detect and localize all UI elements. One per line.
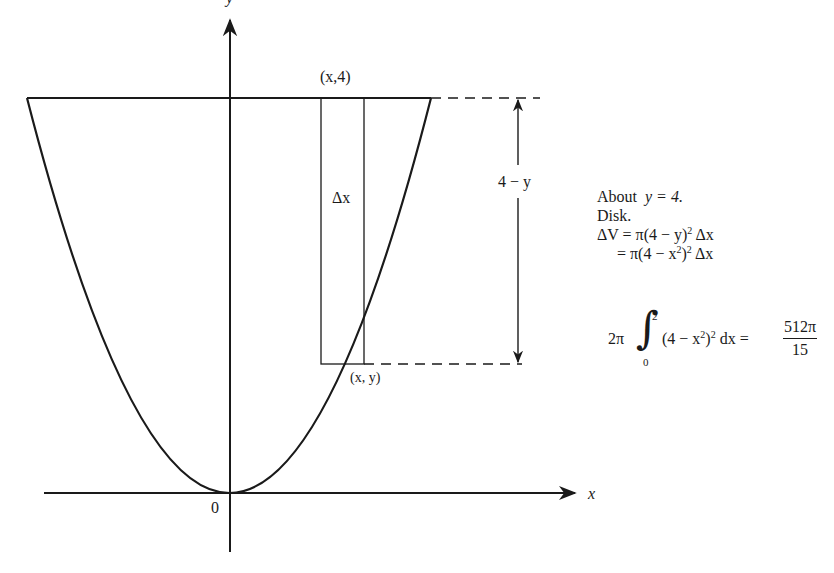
- origin-label: 0: [211, 500, 219, 516]
- bottom-point-label: (x, y): [350, 371, 380, 385]
- volume-element-line2: = π(4 − x2)2 Δx: [597, 244, 714, 263]
- integral-result: 512π 15: [783, 318, 817, 359]
- strip-width-label: Δx: [332, 190, 350, 206]
- axis-of-rotation: About y = 4.: [597, 187, 714, 206]
- top-point-label: (x,4): [320, 69, 351, 85]
- strip-rectangle: [321, 98, 364, 364]
- integral-lower-limit: 0: [643, 356, 649, 368]
- volume-element-line1: ΔV = π(4 − y)2 Δx: [597, 225, 714, 244]
- solution-notes: About y = 4. Disk. ΔV = π(4 − y)2 Δx = π…: [597, 187, 714, 263]
- method-label: Disk.: [597, 206, 714, 225]
- distance-label: 4 − y: [498, 174, 531, 190]
- y-axis-label: y: [226, 0, 233, 6]
- integral-upper-limit: 2: [652, 310, 658, 322]
- integral-coefficient: 2π: [608, 331, 624, 347]
- diagram-canvas: [0, 0, 834, 573]
- x-axis-label: x: [588, 486, 595, 502]
- integrand: (4 − x2)2 dx =: [662, 330, 749, 348]
